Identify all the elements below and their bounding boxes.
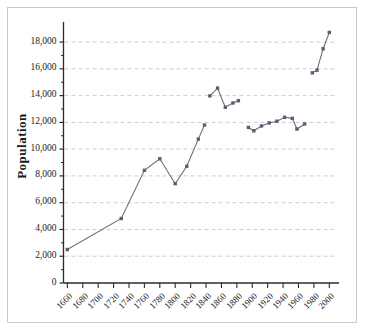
data-point-marker xyxy=(231,101,234,104)
data-point-marker xyxy=(247,126,250,129)
data-point-marker xyxy=(268,121,271,124)
data-point-marker xyxy=(120,217,123,220)
y-tick-label: 0 xyxy=(0,277,57,287)
series-line-segment-4 xyxy=(312,32,329,72)
gridlines xyxy=(65,42,338,256)
data-point-marker xyxy=(291,117,294,120)
data-point-marker xyxy=(197,137,200,140)
data-point-marker xyxy=(208,94,211,97)
data-point-marker xyxy=(203,123,206,126)
x-axis-ticks xyxy=(67,283,329,288)
data-series-markers xyxy=(66,31,331,252)
data-point-marker xyxy=(315,68,318,71)
data-point-marker xyxy=(143,169,146,172)
y-tick-label: 12,000 xyxy=(0,116,57,126)
series-line-segment-1 xyxy=(67,125,204,249)
y-tick-label: 2,000 xyxy=(0,250,57,260)
data-point-marker xyxy=(303,122,306,125)
y-tick-label: 18,000 xyxy=(0,36,57,46)
data-point-marker xyxy=(158,157,161,160)
data-point-marker xyxy=(311,71,314,74)
data-point-marker xyxy=(237,99,240,102)
data-point-marker xyxy=(283,116,286,119)
data-point-marker xyxy=(295,127,298,130)
y-tick-label: 8,000 xyxy=(0,169,57,179)
data-series-lines xyxy=(67,32,329,249)
data-point-marker xyxy=(260,124,263,127)
data-point-marker xyxy=(328,31,331,34)
data-point-marker xyxy=(275,119,278,122)
chart-figure: Population 02,0004,0006,0008,00010,00012… xyxy=(0,0,366,332)
data-point-marker xyxy=(185,165,188,168)
y-tick-label: 16,000 xyxy=(0,62,57,72)
data-point-marker xyxy=(66,248,69,251)
data-point-marker xyxy=(321,47,324,50)
y-tick-label: 10,000 xyxy=(0,143,57,153)
data-point-marker xyxy=(224,106,227,109)
data-point-marker xyxy=(174,182,177,185)
y-tick-label: 14,000 xyxy=(0,89,57,99)
y-tick-label: 4,000 xyxy=(0,223,57,233)
axis-lines xyxy=(64,22,340,283)
data-point-marker xyxy=(252,129,255,132)
data-point-marker xyxy=(216,86,219,89)
y-tick-label: 6,000 xyxy=(0,196,57,206)
